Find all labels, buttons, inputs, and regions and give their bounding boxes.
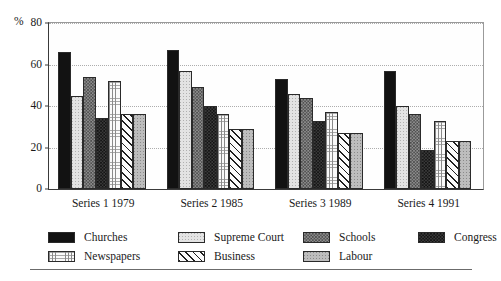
bar bbox=[384, 71, 397, 189]
x-tick-label: Series 4 1991 bbox=[397, 198, 460, 210]
x-tick-label: Series 3 1989 bbox=[289, 198, 352, 210]
x-tick-label: Series 2 1985 bbox=[180, 198, 243, 210]
bar bbox=[409, 114, 422, 189]
legend-item: Labour bbox=[303, 251, 418, 263]
bar bbox=[434, 121, 447, 189]
bar-group: Series 2 1985 bbox=[158, 23, 267, 189]
bar bbox=[217, 114, 230, 189]
bar bbox=[338, 133, 351, 189]
x-tick-label: Series 1 1979 bbox=[72, 198, 135, 210]
legend-label: Churches bbox=[84, 232, 127, 244]
bar bbox=[300, 98, 313, 189]
bar bbox=[71, 96, 84, 189]
bar bbox=[167, 50, 180, 189]
bar bbox=[325, 112, 338, 189]
bar bbox=[179, 71, 192, 189]
legend-item: Schools bbox=[303, 232, 418, 244]
bar bbox=[192, 87, 205, 189]
legend-label: Supreme Court bbox=[214, 232, 284, 244]
bar-group: Series 3 1989 bbox=[266, 23, 375, 189]
legend-item: Business bbox=[178, 251, 303, 263]
legend-label: Labour bbox=[339, 251, 372, 263]
bar bbox=[288, 94, 301, 189]
bar-group: Series 4 1991 bbox=[375, 23, 484, 189]
legend-item: Congress bbox=[418, 232, 501, 244]
chart-legend: ChurchesSupreme CourtSchoolsCongressNews… bbox=[48, 228, 482, 266]
legend-item: Newspapers bbox=[48, 251, 178, 263]
plot-area: 020406080 Series 1 1979Series 2 1985Seri… bbox=[48, 22, 484, 190]
bar bbox=[121, 114, 134, 189]
bar bbox=[396, 106, 409, 189]
legend-label: Newspapers bbox=[84, 251, 140, 263]
legend-swatch-newspapers bbox=[48, 251, 75, 262]
legend-label: Business bbox=[214, 251, 255, 263]
bar bbox=[133, 114, 146, 189]
bar-groups: Series 1 1979Series 2 1985Series 3 1989S… bbox=[49, 23, 483, 189]
legend-item: Supreme Court bbox=[178, 232, 303, 244]
y-axis-label: % bbox=[14, 16, 24, 28]
bar-group: Series 1 1979 bbox=[49, 23, 158, 189]
bar bbox=[229, 129, 242, 189]
bar bbox=[313, 121, 326, 189]
bar bbox=[83, 77, 96, 189]
legend-swatch-business bbox=[178, 251, 205, 262]
bar bbox=[242, 129, 255, 189]
legend-swatch-labour bbox=[303, 251, 330, 262]
legend-swatch-supreme-court bbox=[178, 232, 205, 243]
bar bbox=[108, 81, 121, 189]
legend-label: Schools bbox=[339, 232, 375, 244]
bar bbox=[58, 52, 71, 189]
bar bbox=[350, 133, 363, 189]
legend-swatch-congress bbox=[418, 232, 445, 243]
bar bbox=[421, 150, 434, 189]
bottom-divider bbox=[30, 269, 472, 270]
legend-swatch-schools bbox=[303, 232, 330, 243]
bar bbox=[446, 141, 459, 189]
legend-label: Congress bbox=[454, 232, 497, 244]
legend-swatch-churches bbox=[48, 232, 75, 243]
bar bbox=[96, 118, 109, 189]
legend-item: Churches bbox=[48, 232, 178, 244]
bar bbox=[459, 141, 472, 189]
bar bbox=[204, 106, 217, 189]
bar bbox=[275, 79, 288, 189]
